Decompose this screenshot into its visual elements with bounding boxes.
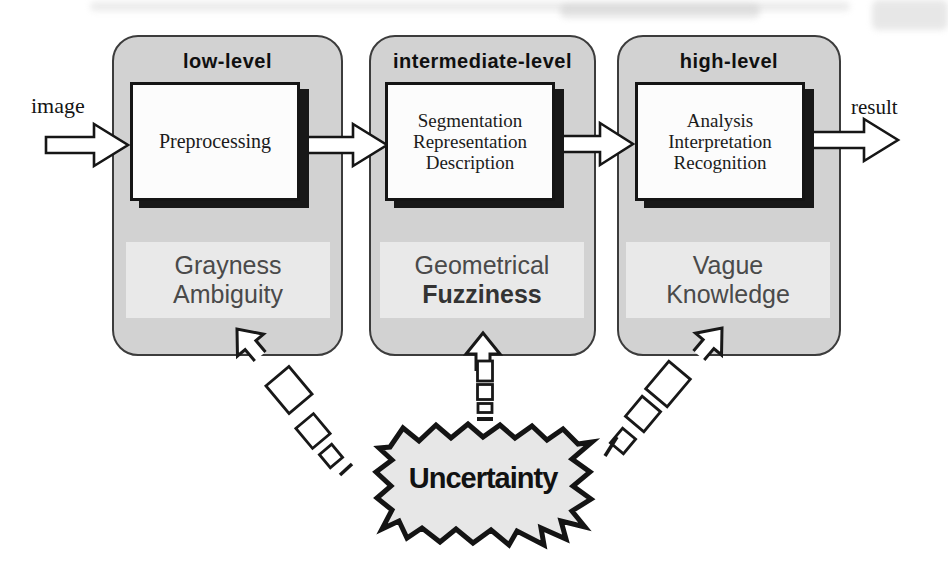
process-box-analysis: Analysis Interpretation Recognition [635,82,805,201]
output-label: result [851,95,898,120]
trail-middle [477,361,493,419]
trail-right [605,361,690,456]
issue-label: Ambiguity [173,280,283,309]
process-label: Representation [413,131,527,152]
process-box-segmentation: Segmentation Representation Description [385,82,555,201]
input-arrow [46,124,128,166]
process-label: Recognition [674,152,767,173]
header-intermediate-level: intermediate-level [369,50,596,73]
input-label: image [31,93,85,119]
uncertainty-arrowhead-right [686,317,735,366]
flow-arrow-2 [558,123,633,165]
trail-left [266,367,352,475]
issue-box-vague-knowledge: Vague Knowledge [626,242,830,318]
process-label: Segmentation [418,110,522,131]
issue-label: Grayness [175,251,282,280]
uncertainty-label: Uncertainty [392,462,574,495]
issue-label: Fuzziness [422,280,541,309]
output-arrow [808,119,898,161]
header-high-level: high-level [617,50,841,73]
issue-label: Vague [693,251,763,280]
issue-box-geometrical-fuzziness: Geometrical Fuzziness [380,242,584,318]
process-box-preprocessing: Preprocessing [130,82,300,201]
flow-arrow-1 [303,124,387,166]
issue-box-grayness-ambiguity: Grayness Ambiguity [126,242,330,318]
issue-label: Geometrical [415,251,550,280]
diagram-canvas: image result low-level Preprocessing Gra… [0,0,948,573]
header-low-level: low-level [112,50,343,73]
process-label: Analysis [687,110,754,131]
process-label: Interpretation [668,131,771,152]
uncertainty-arrowhead-left [224,318,273,367]
process-label: Description [426,152,515,173]
process-label: Preprocessing [159,131,271,152]
issue-label: Knowledge [666,280,790,309]
